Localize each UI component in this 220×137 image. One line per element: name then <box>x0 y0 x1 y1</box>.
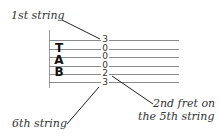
label-first-string: 1st string <box>11 10 65 22</box>
label-fret-note-line2: the 5th string <box>138 111 214 123</box>
label-sixth-string: 6th string <box>12 118 67 130</box>
label-fret-note-line1: 2nd fret on <box>153 98 215 110</box>
